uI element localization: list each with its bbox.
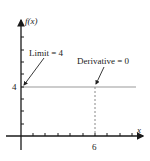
limit-pointer-arrow xyxy=(24,58,44,85)
graph-canvas: f(x) x 4 6 Limit = 4 Derivative = 0 xyxy=(0,0,150,161)
y-axis-label: f(x) xyxy=(25,16,38,26)
derivative-pointer-arrow xyxy=(96,67,104,84)
x-value-label: 6 xyxy=(92,142,97,152)
limit-annotation: Limit = 4 xyxy=(29,48,64,58)
derivative-annotation: Derivative = 0 xyxy=(77,56,130,66)
x-axis-label: x xyxy=(136,125,141,135)
y-value-label: 4 xyxy=(12,82,17,92)
